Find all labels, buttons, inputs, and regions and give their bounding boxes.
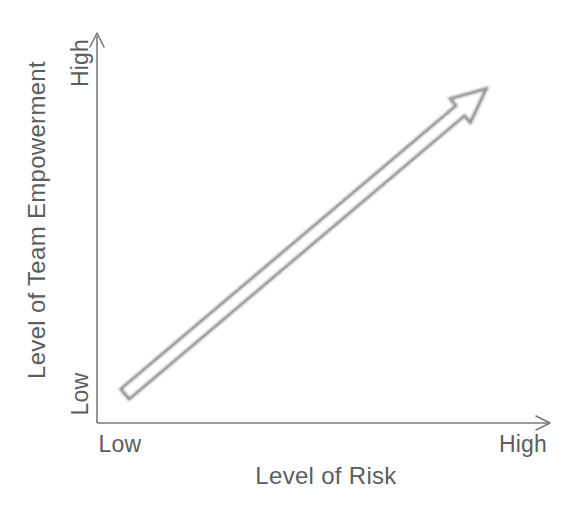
- x-axis-low-label: Low: [99, 431, 142, 458]
- x-axis-title: Level of Risk: [255, 462, 396, 490]
- y-axis-low-label: Low: [67, 373, 94, 416]
- trend-arrow-icon: [115, 77, 496, 406]
- x-axis-high-label: High: [499, 431, 547, 458]
- empowerment-risk-diagram: Level of Team Empowerment High Low Low H…: [0, 0, 583, 508]
- y-axis-high-label: High: [67, 39, 94, 87]
- y-axis-title: Level of Team Empowerment: [23, 61, 51, 379]
